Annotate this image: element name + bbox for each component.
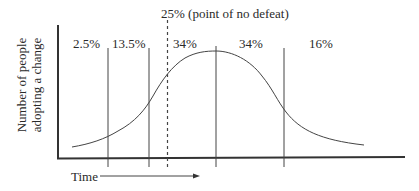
point-of-no-defeat-label: 25% (point of no defeat)	[161, 7, 289, 20]
y-axis-label-line1: Number of people	[14, 15, 29, 155]
segment-label-early-majority: 34%	[173, 37, 197, 50]
segment-label-laggards: 16%	[309, 37, 333, 50]
segment-label-innovators: 2.5%	[73, 37, 100, 50]
y-axis-label-line2: adopting a change	[29, 15, 44, 155]
x-axis	[57, 157, 405, 159]
y-axis-label: Number of people adopting a change	[14, 15, 54, 155]
segment-label-late-majority: 34%	[239, 37, 263, 50]
x-axis-label: Time	[71, 170, 98, 183]
segment-label-early-adopters: 13.5%	[112, 37, 146, 50]
bell-curve	[72, 51, 364, 147]
time-arrow-head-icon	[193, 174, 200, 179]
adoption-curve-diagram	[0, 0, 419, 191]
